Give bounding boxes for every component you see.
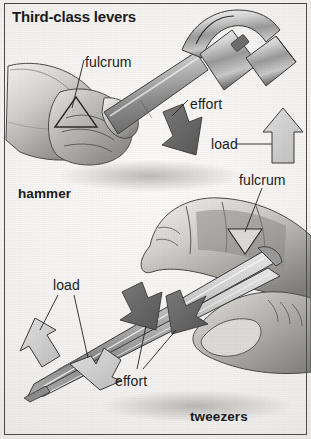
label-effort-tweezers: effort — [115, 373, 147, 389]
caption-tweezers: tweezers — [190, 409, 248, 424]
caption-hammer: hammer — [18, 186, 71, 201]
label-fulcrum-hammer: fulcrum — [85, 54, 132, 70]
label-effort-hammer: effort — [190, 96, 222, 112]
label-load-hammer: load — [211, 136, 238, 152]
figure-third-class-levers: Third-class levers fulcrum effort load h… — [0, 0, 311, 439]
label-fulcrum-tweezers: fulcrum — [239, 172, 286, 188]
figure-border — [4, 3, 307, 435]
label-load-tweezers: load — [53, 277, 80, 293]
figure-title: Third-class levers — [12, 8, 136, 25]
